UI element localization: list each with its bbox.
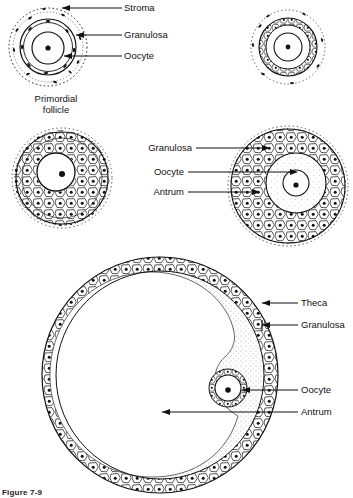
oocyte-nucleus	[45, 45, 50, 50]
caption-line-1: Primordial	[35, 93, 78, 104]
cumulus-oophorus	[209, 369, 247, 407]
figure-caption: Figure 7-9	[2, 488, 42, 497]
caption-primordial-follicle: Primordial follicle	[8, 93, 104, 115]
antrum-cavity	[50, 272, 238, 477]
oocyte-nucleus	[286, 45, 291, 50]
label-oocyte-antral: Oocyte	[96, 167, 184, 177]
panel-primary-follicle	[251, 10, 325, 84]
label-granulosa-graafian: Granulosa	[301, 320, 345, 330]
label-stroma: Stroma	[124, 3, 155, 13]
label-antrum-antral: Antrum	[96, 187, 184, 197]
panel-graafian-follicle	[42, 257, 278, 493]
panel-primordial-follicle	[9, 8, 87, 86]
oocyte-nucleus	[293, 182, 298, 187]
caption-line-2: follicle	[43, 104, 69, 115]
label-granulosa-antral: Granulosa	[96, 143, 192, 153]
label-theca-graafian: Theca	[301, 298, 327, 308]
oocyte-nucleus	[225, 387, 231, 393]
oocyte-body	[37, 153, 75, 191]
label-antrum-graafian: Antrum	[301, 407, 332, 417]
follicle-development-diagram	[0, 0, 353, 498]
label-granulosa-primordial: Granulosa	[124, 30, 168, 40]
label-oocyte-graafian: Oocyte	[301, 385, 331, 395]
oocyte-nucleus	[59, 171, 65, 177]
label-oocyte-primordial: Oocyte	[124, 51, 154, 61]
panel-antral-follicle	[228, 126, 348, 246]
